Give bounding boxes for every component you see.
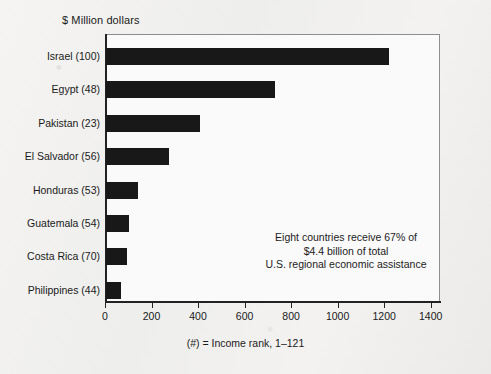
category-label: Pakistan (23) (38, 117, 100, 129)
bar-row: El Salvador (56) (0, 143, 491, 173)
x-tick (431, 302, 432, 308)
category-label: Israel (100) (47, 50, 100, 62)
x-tick (198, 302, 199, 308)
annotation-line: Eight countries receive 67% of (252, 231, 440, 245)
bar (106, 81, 275, 98)
bar-row: Israel (100) (0, 43, 491, 73)
x-tick-label: 1400 (419, 310, 442, 322)
bar-row: Egypt (48) (0, 76, 491, 106)
x-tick-label: 1200 (372, 310, 395, 322)
category-label: Philippines (44) (28, 284, 100, 296)
bar (106, 182, 138, 199)
x-tick (291, 302, 292, 308)
bar-chart: $ Million dollars Israel (100)Egypt (48)… (0, 0, 491, 374)
bar-row: Pakistan (23) (0, 110, 491, 140)
x-axis-note: (#) = Income rank, 1–121 (0, 337, 491, 349)
x-tick-label: 200 (143, 310, 161, 322)
x-tick (338, 302, 339, 308)
category-label: Guatemala (54) (27, 217, 100, 229)
x-tick-label: 600 (236, 310, 254, 322)
x-tick (245, 302, 246, 308)
annotation-line: U.S. regional economic assistance (252, 258, 440, 272)
category-label: Egypt (48) (52, 83, 100, 95)
x-tick-label: 800 (282, 310, 300, 322)
category-label: Costa Rica (70) (27, 250, 100, 262)
annotation-line: $4.4 billion of total (252, 245, 440, 259)
bar (106, 48, 389, 65)
y-axis-title: $ Million dollars (62, 14, 140, 26)
x-tick (384, 302, 385, 308)
x-tick (152, 302, 153, 308)
chart-annotation: Eight countries receive 67% of$4.4 billi… (252, 231, 440, 272)
bar (106, 215, 129, 232)
category-label: Honduras (53) (33, 184, 100, 196)
bar (106, 282, 121, 299)
bar (106, 148, 169, 165)
x-tick-label: 1000 (326, 310, 349, 322)
bar-row: Honduras (53) (0, 177, 491, 207)
category-label: El Salvador (56) (25, 150, 100, 162)
x-tick-label: 0 (102, 310, 108, 322)
bar (106, 115, 200, 132)
x-tick (105, 302, 106, 308)
bar (106, 248, 127, 265)
x-tick-label: 400 (189, 310, 207, 322)
